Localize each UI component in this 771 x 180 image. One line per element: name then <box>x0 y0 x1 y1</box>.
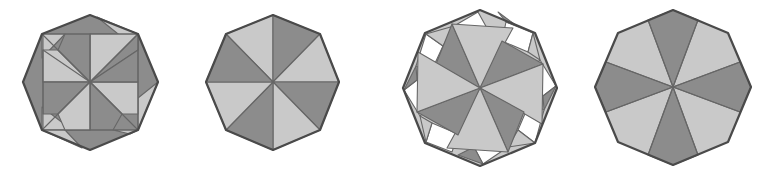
figure-canvas <box>0 0 771 180</box>
octagon-1 <box>23 15 158 150</box>
octagon-3 <box>403 10 557 166</box>
octagon-2 <box>206 15 339 150</box>
octagon-4 <box>595 10 751 165</box>
